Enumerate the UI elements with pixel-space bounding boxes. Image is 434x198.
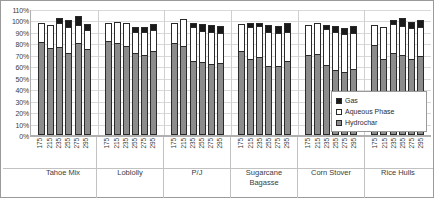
- temperature-tick-label: 255: [331, 138, 340, 149]
- temperature-tick-row: 175215235255275295: [298, 137, 364, 168]
- stacked-bar[interactable]: [47, 25, 54, 135]
- bar-segment-gas: [399, 18, 406, 26]
- bar-segment-aqueous-phase: [380, 27, 387, 59]
- stacked-bar[interactable]: [150, 24, 157, 135]
- bar-group: [231, 10, 298, 135]
- stacked-bar[interactable]: [190, 23, 197, 135]
- bar-segment-hydrochar: [305, 55, 312, 135]
- stacked-bar[interactable]: [305, 25, 312, 135]
- stacked-bar[interactable]: [208, 25, 215, 135]
- y-axis-tick-label: 40%: [16, 87, 29, 94]
- temperature-tick-label: 255: [130, 138, 139, 149]
- chart-legend: Gas Aqueous Phase Hydrochar: [331, 91, 427, 132]
- stacked-bar[interactable]: [38, 23, 45, 135]
- stacked-bar[interactable]: [171, 23, 178, 135]
- bar-segment-aqueous-phase: [323, 29, 330, 66]
- bar-segment-aqueous-phase: [180, 19, 187, 45]
- stacked-bar[interactable]: [123, 23, 130, 135]
- bar-segment-aqueous-phase: [408, 28, 415, 59]
- temperature-tick-label: 215: [179, 138, 188, 149]
- temperature-tick-label: 295: [349, 138, 358, 149]
- temperature-tick-label: 275: [206, 138, 215, 149]
- bar-segment-aqueous-phase: [56, 23, 63, 47]
- bar-segment-aqueous-phase: [114, 22, 121, 44]
- temperature-tick-label: 295: [282, 138, 291, 149]
- temperature-tick-label: 255: [63, 138, 72, 149]
- hydrochar-swatch-icon: [336, 120, 342, 126]
- bar-segment-hydrochar: [75, 43, 82, 135]
- bar-segment-gas: [75, 16, 82, 25]
- stacked-bar[interactable]: [323, 25, 330, 135]
- temperature-tick-label: 175: [35, 138, 44, 149]
- bar-segment-gas: [417, 20, 424, 27]
- legend-item-aqueous-phase: Aqueous Phase: [336, 106, 423, 117]
- bar-segment-hydrochar: [141, 55, 148, 135]
- y-axis-tick-label: 0%: [19, 133, 29, 140]
- bar-segment-gas: [284, 23, 291, 32]
- bar-segment-aqueous-phase: [256, 26, 263, 57]
- legend-item-hydrochar: Hydrochar: [336, 117, 423, 128]
- bar-segment-gas: [65, 20, 72, 27]
- stacked-bar[interactable]: [199, 24, 206, 135]
- category-label: Rice Hulls: [365, 168, 431, 178]
- bar-segment-hydrochar: [275, 66, 282, 135]
- bar-segment-hydrochar: [114, 43, 121, 135]
- legend-label-gas: Gas: [345, 97, 358, 104]
- bar-segment-hydrochar: [56, 47, 63, 135]
- stacked-bar[interactable]: [247, 23, 254, 135]
- stacked-bar[interactable]: [114, 22, 121, 135]
- bar-segment-aqueous-phase: [341, 34, 348, 72]
- stacked-bar[interactable]: [238, 24, 245, 135]
- temperature-tick-label: 255: [264, 138, 273, 149]
- bar-segment-hydrochar: [171, 43, 178, 135]
- stacked-bar[interactable]: [141, 27, 148, 135]
- stacked-bar[interactable]: [65, 20, 72, 135]
- legend-label-aqueous-phase: Aqueous Phase: [345, 108, 394, 115]
- aqueous-phase-swatch-icon: [336, 109, 342, 115]
- temperature-tick-label: 235: [389, 138, 398, 149]
- temperature-tick-label: 235: [255, 138, 264, 149]
- temperature-tick-label: 175: [102, 138, 111, 149]
- stacked-bar[interactable]: [217, 26, 224, 135]
- temperature-tick-label: 235: [54, 138, 63, 149]
- bar-segment-gas: [265, 25, 272, 32]
- bar-segment-hydrochar: [247, 59, 254, 135]
- temperature-tick-label: 255: [398, 138, 407, 149]
- bar-segment-gas: [217, 26, 224, 33]
- bar-segment-hydrochar: [265, 66, 272, 135]
- y-axis-tick-label: 50%: [16, 75, 29, 82]
- stacked-bar[interactable]: [75, 16, 82, 135]
- bar-segment-aqueous-phase: [123, 23, 130, 46]
- bar-segment-hydrochar: [180, 46, 187, 135]
- bar-segment-gas: [408, 22, 415, 29]
- bar-segment-aqueous-phase: [390, 24, 397, 53]
- temperature-tick-row: 175215235255275295: [365, 137, 431, 168]
- bar-segment-gas: [275, 26, 282, 33]
- bar-segment-aqueous-phase: [47, 25, 54, 48]
- stacked-bar[interactable]: [256, 23, 263, 135]
- stacked-bar[interactable]: [56, 18, 63, 135]
- bar-segment-aqueous-phase: [141, 32, 148, 55]
- temperature-tick-row: 175215235255275295: [231, 137, 297, 168]
- bar-segment-aqueous-phase: [105, 23, 112, 41]
- stacked-bar[interactable]: [265, 25, 272, 135]
- bar-segment-hydrochar: [123, 46, 130, 135]
- stacked-bar[interactable]: [275, 26, 282, 135]
- bar-segment-hydrochar: [65, 53, 72, 135]
- stacked-bar[interactable]: [132, 27, 139, 135]
- stacked-bar[interactable]: [180, 19, 187, 135]
- stacked-bar[interactable]: [284, 23, 291, 135]
- y-axis-tick-label: 20%: [16, 110, 29, 117]
- temperature-tick-label: 215: [380, 138, 389, 149]
- bar-segment-hydrochar: [238, 51, 245, 135]
- stacked-bar[interactable]: [105, 23, 112, 135]
- bar-segment-hydrochar: [256, 57, 263, 135]
- temperature-tick-label: 235: [121, 138, 130, 149]
- y-axis-tick-label: 100%: [12, 18, 29, 25]
- stacked-bar[interactable]: [84, 24, 91, 135]
- stacked-bar[interactable]: [314, 23, 321, 135]
- bar-segment-aqueous-phase: [84, 30, 91, 49]
- bar-segment-aqueous-phase: [171, 23, 178, 44]
- stacked-bar-chart: 0%10%20%30%40%50%60%70%80%90%100%110% 17…: [0, 0, 434, 198]
- bar-segment-aqueous-phase: [247, 27, 254, 59]
